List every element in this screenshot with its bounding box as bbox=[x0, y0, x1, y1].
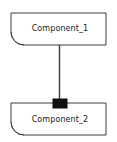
component-node-component_1[interactable]: Component_1 bbox=[11, 13, 106, 45]
diagram-surface: Component_1 Component_2 bbox=[0, 0, 117, 142]
uml-component-diagram: Component_1 Component_2 bbox=[0, 0, 117, 142]
provided-port-square-icon[interactable] bbox=[53, 99, 67, 108]
component-label: Component_1 bbox=[32, 24, 89, 33]
component-label: Component_2 bbox=[32, 115, 89, 124]
